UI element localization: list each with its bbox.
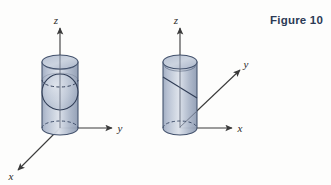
right-z-label: z <box>173 14 179 26</box>
left-x-label: x <box>8 170 14 182</box>
right-y-label: y <box>243 58 249 70</box>
figure-illustration: z y x z y x <box>0 0 331 185</box>
right-x-label: x <box>237 122 243 134</box>
left-z-label: z <box>53 14 59 26</box>
left-panel: z y x <box>8 14 123 182</box>
figure-caption: Figure 10 <box>270 14 323 26</box>
left-y-label: y <box>117 122 123 134</box>
right-panel: z y x <box>163 14 249 135</box>
